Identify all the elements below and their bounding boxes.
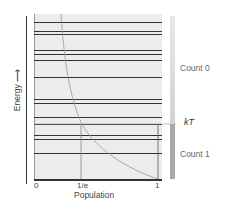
x-tick-1e: 1/e [77,181,88,190]
kt-label: kT [184,117,194,127]
count-0-label: Count 0 [180,63,210,73]
count-1-label: Count 1 [180,149,210,159]
count-bar-upper [170,16,175,124]
x-tick-0: 0 [34,181,38,190]
x-tick-1: 1 [155,181,159,190]
count-bar-lower [170,124,175,179]
population-axis-line [34,179,162,181]
population-label: Population [74,190,114,200]
